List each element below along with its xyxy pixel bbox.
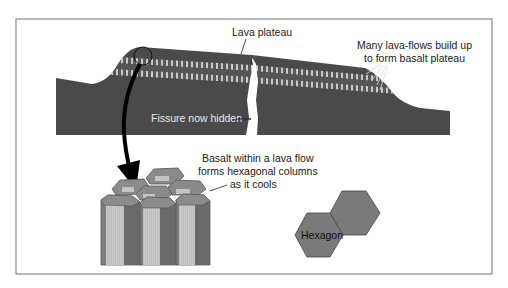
basalt-label-line3: as it cools — [230, 178, 277, 190]
basalt-label-line1: Basalt within a lava flow — [202, 152, 314, 164]
hexagon-label: Hexagon — [301, 229, 343, 241]
basalt-label-line2: forms hexagonal columns — [198, 165, 318, 177]
lava-plateau-label: Lava plateau — [232, 26, 292, 38]
many-lava-flows-label-line2: to form basalt plateau — [364, 52, 465, 64]
many-lava-flows-label-line1: Many lava-flows build up — [357, 39, 472, 51]
lava-plateau-diagram: Lava plateau Many lava-flows build up to… — [0, 0, 508, 288]
fissure-label: Fissure now hidden — [151, 112, 242, 124]
basalt-columns — [101, 168, 210, 265]
